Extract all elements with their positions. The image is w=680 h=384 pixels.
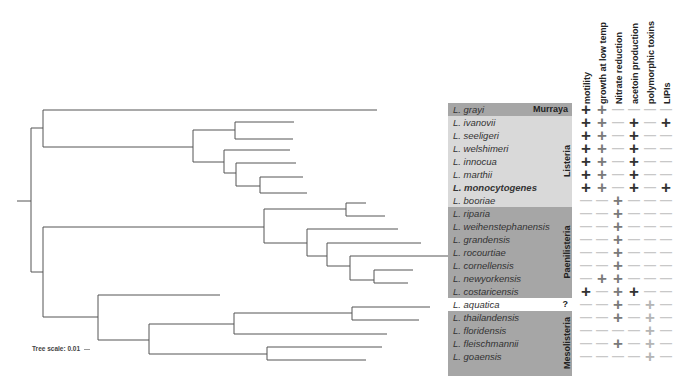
trait-header: motility xyxy=(580,4,592,104)
species-label: L. newyorkensis xyxy=(448,272,570,285)
trait-header: LIPIs xyxy=(660,4,672,104)
trait-header-label: polymorphic toxins xyxy=(646,21,656,104)
minus-icon: — xyxy=(610,350,626,363)
species-label: L. grayi xyxy=(448,103,570,116)
trait-header: growth at low temp xyxy=(596,4,608,104)
trait-header: polymorphic toxins xyxy=(644,4,656,104)
plus-icon: + xyxy=(642,350,658,363)
species-label: L. floridensis xyxy=(448,324,570,337)
species-label: L. thailandensis xyxy=(448,311,570,324)
trait-header: Nitrate reduction xyxy=(612,4,624,104)
species-label: L. seeligeri xyxy=(448,129,570,142)
tree-scale-label: Tree scale: 0.01 xyxy=(32,345,80,352)
species-label: L. aquatica xyxy=(448,298,570,311)
trait-header-label: Nitrate reduction xyxy=(614,32,624,104)
minus-icon: — xyxy=(658,350,674,363)
species-label: L. costaricensis xyxy=(448,285,570,298)
minus-icon: — xyxy=(626,350,642,363)
species-label: L. monocytogenes xyxy=(448,181,570,194)
scale-bar xyxy=(84,349,90,350)
minus-icon: — xyxy=(578,350,594,363)
species-label: L. goaensis xyxy=(448,350,570,363)
trait-header-label: growth at low temp xyxy=(598,22,608,104)
trait-header: acetoin production xyxy=(628,4,640,104)
species-label: L. welshimeri xyxy=(448,142,570,155)
species-label: L. grandensis xyxy=(448,233,570,246)
species-label: L. booriae xyxy=(448,194,570,207)
species-label: L. rocourtiae xyxy=(448,246,570,259)
species-label: L. fleischmannii xyxy=(448,337,570,350)
species-label: L. marthii xyxy=(448,168,570,181)
trait-header-label: LIPIs xyxy=(662,82,672,104)
species-label: L. riparia xyxy=(448,207,570,220)
species-label: L. weihenstephanensis xyxy=(448,220,570,233)
trait-header-label: acetoin production xyxy=(630,23,640,104)
species-label: L. innocua xyxy=(448,155,570,168)
species-label: L. cornellensis xyxy=(448,259,570,272)
species-label: L. ivanovii xyxy=(448,116,570,129)
minus-icon: — xyxy=(594,350,610,363)
tree-scale: Tree scale: 0.01 xyxy=(32,345,90,352)
